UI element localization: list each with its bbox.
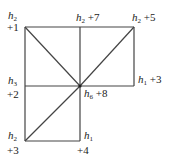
node-label-tr: h2 +5 (132, 12, 155, 27)
node-offset-tl: +1 (7, 22, 19, 33)
node-label-bl: h2 (8, 130, 17, 145)
node-offset-bl: +3 (7, 145, 19, 156)
diagonal-top-left (25, 27, 80, 86)
node-offset-ml: +2 (7, 89, 19, 100)
node-label-center: h6 +8 (84, 88, 107, 103)
node-label-mr: h1 +3 (138, 74, 161, 89)
node-label-br: h1 (84, 130, 93, 145)
node-offset-br: +4 (77, 145, 89, 156)
diagonal-bottom-left (25, 86, 80, 141)
diagonal-top-right (80, 27, 134, 86)
triangulated-grid-diagram: h2 +1 h2 +7 h2 +5 h1 +3 h3 +2 h6 +8 h2 +… (0, 0, 172, 163)
center-node (78, 84, 81, 87)
node-label-tm: h2 +7 (76, 12, 99, 27)
